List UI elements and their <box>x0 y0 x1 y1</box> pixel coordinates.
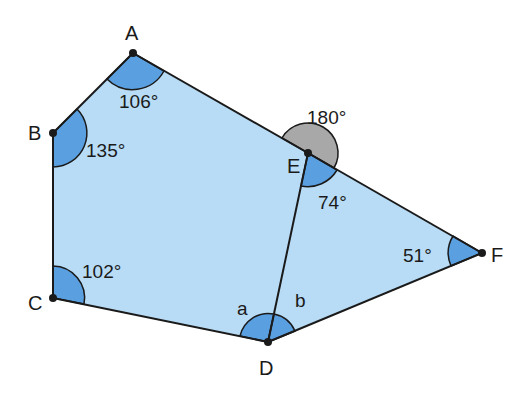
vertex-label-e: E <box>287 155 300 177</box>
vertex-f-dot <box>478 249 486 257</box>
angle-label-d-a: a <box>237 298 248 319</box>
vertex-a-dot <box>129 49 137 57</box>
vertex-label-b: B <box>28 122 41 144</box>
angle-label-a: 106° <box>119 91 158 112</box>
angle-label-e: 74° <box>318 192 347 213</box>
angle-label-c: 102° <box>82 261 121 282</box>
vertex-label-f: F <box>491 244 503 266</box>
vertex-b-dot <box>49 129 57 137</box>
pentagon-shape <box>53 53 308 342</box>
angle-label-e-reflex: 180° <box>307 107 346 128</box>
vertex-label-a: A <box>125 22 139 44</box>
diagram: A B C D E F 106° 135° 102° 180° 74° 51° … <box>0 0 527 405</box>
polygon-diagram: A B C D E F 106° 135° 102° 180° 74° 51° … <box>0 0 527 405</box>
angle-label-d-b: b <box>295 290 306 311</box>
vertex-c-dot <box>49 294 57 302</box>
vertex-label-c: C <box>28 292 42 314</box>
vertex-label-d: D <box>259 357 273 379</box>
vertex-d-dot <box>264 338 272 346</box>
angle-label-b: 135° <box>86 140 125 161</box>
angle-label-f: 51° <box>403 245 432 266</box>
vertex-e-dot <box>304 149 312 157</box>
